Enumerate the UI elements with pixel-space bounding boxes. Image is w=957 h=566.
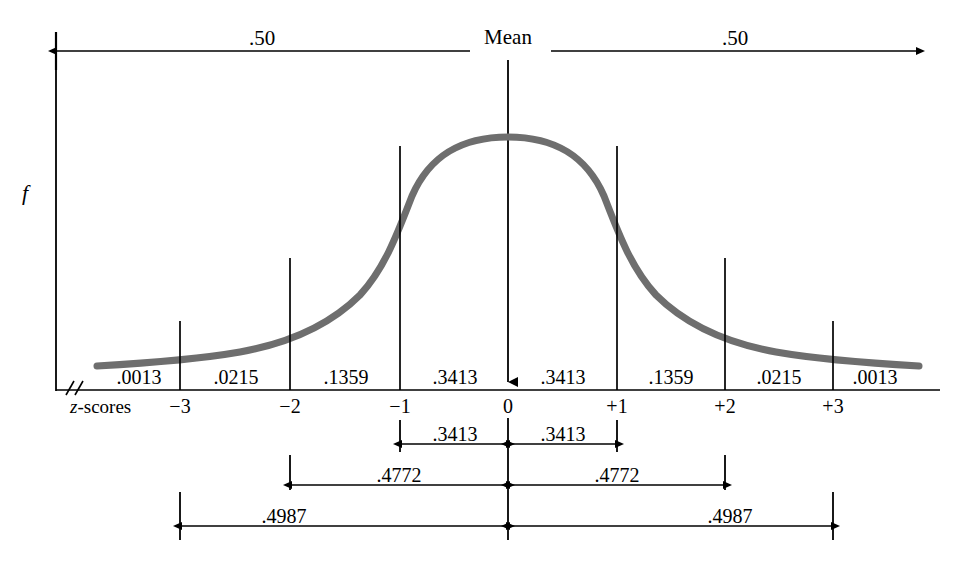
area-label-n3-n2: .0215: [214, 367, 259, 387]
bracket-label-minus3-sd: .4987: [262, 506, 307, 526]
bracket-row-2: [290, 455, 725, 492]
area-label-0-p1: .3413: [541, 367, 586, 387]
area-label-p1-p2: .1359: [649, 367, 694, 387]
area-label-p2-p3: .0215: [757, 367, 802, 387]
normal-distribution-figure: .50 Mean .50 f z-scores .0013 .0215 .135…: [0, 0, 957, 566]
z-tick-label-minus2: −2: [279, 396, 300, 416]
mean-label: Mean: [484, 27, 532, 48]
area-label-n2-n1: .1359: [324, 367, 369, 387]
top-left-half-label: .50: [249, 28, 275, 49]
y-axis-label: f: [22, 182, 28, 204]
z-tick-label-plus2: +2: [714, 396, 735, 416]
bracket-label-plus2-sd: .4772: [595, 465, 640, 485]
axis-break-icon: [66, 381, 83, 395]
figure-canvas: [0, 0, 957, 566]
z-tick-label-minus3: −3: [169, 396, 190, 416]
bracket-label-plus3-sd: .4987: [708, 506, 753, 526]
area-label-p3-p4: .0013: [853, 367, 898, 387]
area-label-n1-0: .3413: [433, 367, 478, 387]
z-tick-label-zero: 0: [503, 396, 513, 416]
bracket-label-minus2-sd: .4772: [377, 465, 422, 485]
area-label-n4-n3: .0013: [117, 367, 162, 387]
x-axis-label: z-scores: [70, 397, 131, 416]
z-tick-label-minus1: −1: [389, 396, 410, 416]
bracket-label-plus1-sd: .3413: [541, 424, 586, 444]
z-tick-label-plus3: +3: [822, 396, 843, 416]
z-tick-lines: [180, 146, 833, 390]
x-axis-label-suffix: -scores: [77, 396, 131, 417]
bracket-label-minus1-sd: .3413: [433, 424, 478, 444]
z-tick-label-plus1: +1: [606, 396, 627, 416]
top-right-half-label: .50: [722, 28, 748, 49]
